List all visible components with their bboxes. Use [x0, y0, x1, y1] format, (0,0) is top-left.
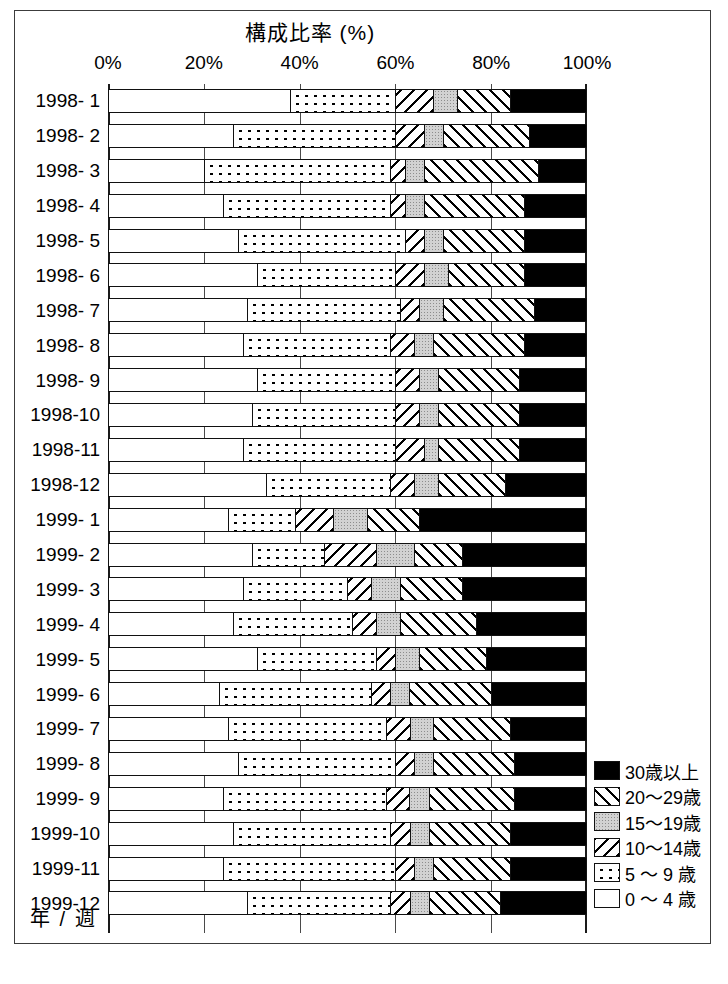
- bar-row: 1998- 4: [108, 189, 587, 224]
- bar-segment-5 〜 9 歳: [252, 544, 324, 566]
- legend-swatch-black-icon: [594, 761, 620, 780]
- bar-segment-10〜14歳: [395, 753, 414, 775]
- stacked-bar: [108, 647, 587, 671]
- bar-segment-15〜19歳: [414, 334, 433, 356]
- bar-segment-30歳以上: [514, 753, 586, 775]
- bar-segment-10〜14歳: [395, 404, 419, 426]
- bar-segment-0 〜 4 歳: [109, 683, 219, 705]
- legend-item-2: 15〜19歳: [594, 809, 706, 835]
- y-axis-label-21: 1999-10: [30, 823, 100, 845]
- bar-segment-20〜29歳: [414, 544, 462, 566]
- bar-row: 1998- 5: [108, 224, 587, 259]
- bar-segment-10〜14歳: [371, 683, 390, 705]
- bar-segment-5 〜 9 歳: [233, 613, 352, 635]
- bar-segment-5 〜 9 歳: [204, 160, 390, 182]
- bar-segment-0 〜 4 歳: [109, 892, 247, 914]
- y-axis-label-0: 1998- 1: [36, 90, 100, 112]
- stacked-bar: [108, 333, 587, 357]
- bar-segment-0 〜 4 歳: [109, 334, 243, 356]
- bar-segment-20〜29歳: [443, 125, 529, 147]
- legend-label: 30歳以上: [625, 758, 699, 784]
- stacked-bar: [108, 229, 587, 253]
- bar-row: 1999- 4: [108, 607, 587, 642]
- bar-row: 1999- 1: [108, 503, 587, 538]
- stacked-bar: [108, 717, 587, 741]
- bar-segment-5 〜 9 歳: [257, 264, 395, 286]
- bar-segment-5 〜 9 歳: [243, 439, 396, 461]
- bar-segment-20〜29歳: [433, 858, 509, 880]
- bar-segment-10〜14歳: [390, 334, 414, 356]
- bar-segment-0 〜 4 歳: [109, 613, 233, 635]
- bar-segment-10〜14歳: [395, 858, 414, 880]
- bar-segment-30歳以上: [524, 334, 586, 356]
- bar-segment-10〜14歳: [295, 509, 333, 531]
- bar-row: 1999-12: [108, 886, 587, 921]
- stacked-bar: [108, 194, 587, 218]
- legend-label: 5 〜 9 歳: [625, 860, 696, 886]
- bar-segment-0 〜 4 歳: [109, 264, 257, 286]
- bar-row: 1998-11: [108, 433, 587, 468]
- legend-swatch-dots-icon: [594, 863, 620, 882]
- legend-swatch-white-icon: [594, 889, 620, 908]
- bar-segment-15〜19歳: [424, 264, 448, 286]
- bar-segment-0 〜 4 歳: [109, 125, 233, 147]
- bar-segment-15〜19歳: [414, 753, 433, 775]
- bar-segment-0 〜 4 歳: [109, 578, 243, 600]
- y-axis-label-2: 1998- 3: [36, 160, 100, 182]
- y-axis-caption: 年 / 週: [30, 903, 97, 932]
- bar-segment-15〜19歳: [410, 718, 434, 740]
- bar-segment-30歳以上: [538, 160, 586, 182]
- chart-page: 構成比率 (%) 0%20%40%60%80%100% 1998- 11998-…: [0, 0, 728, 984]
- legend-item-5: 0 〜 4 歳: [594, 886, 706, 912]
- y-axis-label-10: 1998-11: [32, 439, 100, 461]
- bar-segment-20〜29歳: [438, 474, 505, 496]
- stacked-bar: [108, 787, 587, 811]
- stacked-bar: [108, 822, 587, 846]
- bar-segment-20〜29歳: [367, 509, 419, 531]
- stacked-bar: [108, 263, 587, 287]
- bar-segment-0 〜 4 歳: [109, 544, 252, 566]
- bar-segment-10〜14歳: [395, 369, 419, 391]
- bar-segment-30歳以上: [462, 578, 586, 600]
- bar-segment-15〜19歳: [419, 299, 443, 321]
- stacked-bar: [108, 368, 587, 392]
- bar-segment-20〜29歳: [429, 823, 510, 845]
- bar-segment-20〜29歳: [400, 578, 462, 600]
- bar-segment-0 〜 4 歳: [109, 404, 252, 426]
- bar-segment-5 〜 9 歳: [238, 230, 405, 252]
- bar-segment-0 〜 4 歳: [109, 718, 228, 740]
- bar-segment-5 〜 9 歳: [238, 753, 395, 775]
- bar-row: 1999- 8: [108, 747, 587, 782]
- bar-segment-10〜14歳: [395, 90, 433, 112]
- bar-segment-20〜29歳: [443, 230, 524, 252]
- bar-segment-10〜14歳: [376, 648, 395, 670]
- y-axis-label-15: 1999- 4: [36, 614, 100, 636]
- stacked-bar: [108, 752, 587, 776]
- y-axis-label-7: 1998- 8: [36, 335, 100, 357]
- bar-segment-5 〜 9 歳: [228, 718, 385, 740]
- bar-segment-15〜19歳: [433, 90, 457, 112]
- legend-item-1: 20〜29歳: [594, 784, 706, 810]
- bar-segment-5 〜 9 歳: [257, 648, 376, 670]
- bar-segment-10〜14歳: [352, 613, 376, 635]
- legend-label: 0 〜 4 歳: [625, 885, 696, 911]
- bar-segment-0 〜 4 歳: [109, 648, 257, 670]
- bar-segment-15〜19歳: [424, 439, 438, 461]
- bar-segment-30歳以上: [519, 404, 586, 426]
- legend-item-3: 10〜14歳: [594, 835, 706, 861]
- legend-swatch-diagdown-icon: [594, 838, 620, 857]
- bar-segment-30歳以上: [510, 823, 586, 845]
- bar-segment-20〜29歳: [433, 334, 524, 356]
- bar-segment-30歳以上: [524, 195, 586, 217]
- bar-segment-20〜29歳: [429, 788, 515, 810]
- bar-segment-30歳以上: [510, 718, 586, 740]
- bar-segment-0 〜 4 歳: [109, 509, 228, 531]
- bar-row: 1998- 7: [108, 293, 587, 328]
- bar-segment-30歳以上: [524, 264, 586, 286]
- bar-row: 1999-10: [108, 817, 587, 852]
- bar-segment-20〜29歳: [400, 613, 476, 635]
- x-axis-tick-labels: 0%20%40%60%80%100%: [0, 52, 728, 76]
- bar-segment-30歳以上: [491, 683, 586, 705]
- stacked-bar: [108, 682, 587, 706]
- stacked-bar: [108, 89, 587, 113]
